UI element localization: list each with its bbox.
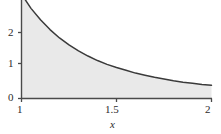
chart-figure: 2 1 0 1 1.5 2 x <box>0 0 221 134</box>
y-tick-label-2: 2 <box>8 27 14 38</box>
x-tick-label-2: 2 <box>205 104 211 115</box>
y-tick-label-1: 1 <box>8 58 14 69</box>
x-tick-label-1: 1 <box>17 104 23 115</box>
x-tick-label-1-5: 1.5 <box>105 104 119 115</box>
area-fill <box>22 0 212 99</box>
x-axis-title: x <box>110 119 115 130</box>
y-tick-label-0: 0 <box>8 92 14 103</box>
